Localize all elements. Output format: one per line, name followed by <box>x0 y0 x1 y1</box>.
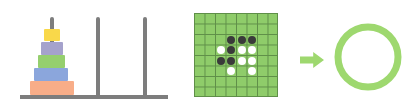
hanoi-disk-blue <box>34 68 68 81</box>
black-stone <box>227 57 235 65</box>
white-stone <box>217 46 225 54</box>
hanoi-disk-yellow <box>44 29 60 41</box>
hanoi-pole-3 <box>143 17 147 97</box>
white-stone <box>238 57 246 65</box>
black-stone <box>227 36 235 44</box>
hanoi-disk-orange <box>30 81 74 95</box>
hanoi-pole-2 <box>96 17 100 97</box>
black-stone <box>227 46 235 54</box>
hanoi-disk-purple <box>41 42 63 55</box>
hanoi-disk-green <box>38 55 65 68</box>
black-stone <box>238 36 246 44</box>
othello-board <box>194 13 278 97</box>
white-stone <box>227 67 235 75</box>
black-stone <box>248 36 256 44</box>
white-stone <box>238 46 246 54</box>
hanoi-base <box>20 95 168 99</box>
circle-outline-icon <box>331 20 405 94</box>
white-stone <box>248 46 256 54</box>
black-stone <box>217 57 225 65</box>
white-stone <box>248 57 256 65</box>
white-stone <box>248 67 256 75</box>
arrow-right-icon <box>300 52 324 68</box>
